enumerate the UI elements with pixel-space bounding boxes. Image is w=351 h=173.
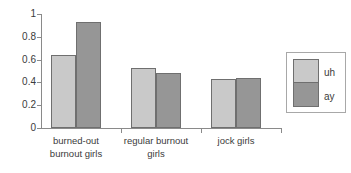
legend-swatch-uh bbox=[294, 60, 318, 83]
y-tick-label-1: 0.2 bbox=[22, 100, 36, 110]
y-axis-line bbox=[41, 14, 42, 129]
bar-ay-2 bbox=[236, 78, 261, 128]
category-label-1: regular burnout girls bbox=[116, 134, 196, 160]
category-label-2: jock girls bbox=[196, 134, 276, 147]
legend-swatch-ay bbox=[294, 83, 318, 106]
y-tick-label-3: 0.6 bbox=[22, 55, 36, 65]
x-axis-line bbox=[41, 128, 281, 129]
bar-ay-0 bbox=[76, 22, 101, 128]
bar-uh-2 bbox=[211, 79, 236, 128]
category-label-0: burned-out burnout girls bbox=[36, 134, 116, 160]
legend-label-uh: uh bbox=[324, 68, 335, 78]
y-tick-label-5: 1 bbox=[30, 9, 36, 19]
y-tick-label-4: 0.8 bbox=[22, 32, 36, 42]
plot-area: 0 0.2 0.4 0.6 0.8 1 bbox=[41, 14, 281, 128]
legend: uh ay bbox=[286, 52, 346, 113]
legend-label-ay: ay bbox=[324, 92, 335, 102]
bar-uh-1 bbox=[131, 68, 156, 128]
x-tick-0 bbox=[121, 128, 122, 133]
legend-swatch-group bbox=[293, 59, 319, 107]
bar-chart: 0 0.2 0.4 0.6 0.8 1 bbox=[0, 0, 351, 173]
bar-uh-0 bbox=[51, 55, 76, 128]
y-tick-label-0: 0 bbox=[30, 123, 36, 133]
bar-ay-1 bbox=[156, 73, 181, 128]
x-tick-1 bbox=[201, 128, 202, 133]
y-tick-label-2: 0.4 bbox=[22, 77, 36, 87]
x-tick-2 bbox=[281, 128, 282, 133]
